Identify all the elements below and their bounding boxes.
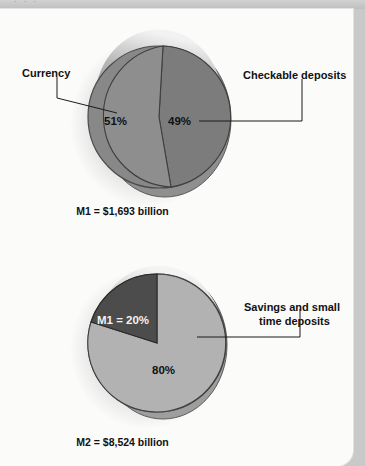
toolbar-ghost-text: · · · <box>14 0 38 6</box>
pie1-value-51: 51% <box>104 115 127 127</box>
pie-charts-figure: Currency Checkable deposits 51% 49% M1 =… <box>0 9 365 466</box>
pie2-value-80: 80% <box>152 364 175 376</box>
pie2-label-savings-line1: Savings and small <box>244 301 340 314</box>
pie1-label-currency: Currency <box>22 67 70 80</box>
pie1-value-49: 49% <box>168 115 191 127</box>
pie2-caption: M2 = $8,524 billion <box>0 436 305 448</box>
pie2-label-savings-line2: time deposits <box>259 315 330 328</box>
pie2-value-m1-20: M1 = 20% <box>97 314 149 326</box>
pie1-label-checkable-deposits: Checkable deposits <box>243 69 346 82</box>
pie1-caption: M1 = $1,693 billion <box>0 205 305 217</box>
window-toolbar-strip: · · · <box>0 0 365 9</box>
pie-chart-m2 <box>0 257 365 437</box>
figure-root: · · · <box>0 0 365 466</box>
